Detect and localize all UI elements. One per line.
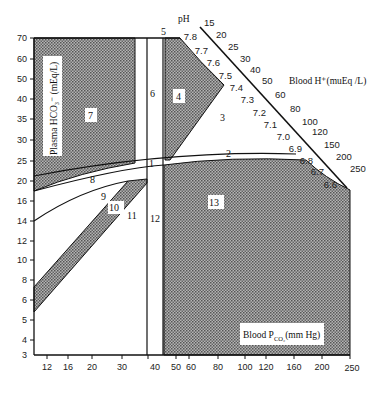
svg-text:7.5: 7.5	[219, 70, 232, 81]
x-tick-labels: 12 16 20 30 40 50 60 80 100 120 160 200 …	[42, 362, 360, 373]
svg-text:12: 12	[42, 362, 52, 372]
svg-text:6.9: 6.9	[289, 143, 302, 154]
svg-text:8: 8	[90, 174, 95, 185]
svg-text:20: 20	[17, 176, 27, 186]
svg-text:250: 250	[350, 163, 366, 174]
svg-text:3: 3	[220, 112, 225, 123]
svg-text:30: 30	[240, 53, 251, 64]
svg-text:6: 6	[22, 295, 27, 305]
svg-text:25: 25	[17, 156, 27, 166]
svg-text:16: 16	[63, 362, 73, 372]
svg-text:160: 160	[286, 362, 301, 372]
svg-text:40: 40	[250, 64, 261, 75]
svg-text:150: 150	[324, 139, 340, 150]
y-axis-label: Plasma HCO₃⁻ (mEq/L)	[49, 62, 60, 155]
svg-text:6.6: 6.6	[324, 179, 337, 190]
svg-text:12: 12	[17, 236, 27, 246]
svg-text:14: 14	[17, 216, 27, 226]
svg-text:7.6: 7.6	[207, 57, 220, 68]
svg-text:100: 100	[237, 362, 252, 372]
svg-text:7.2: 7.2	[253, 107, 266, 118]
svg-text:9: 9	[101, 191, 106, 202]
svg-text:30: 30	[117, 362, 127, 372]
svg-text:3: 3	[22, 350, 27, 360]
svg-text:7.3: 7.3	[241, 94, 254, 105]
svg-text:10: 10	[17, 255, 27, 265]
svg-text:50: 50	[171, 362, 181, 372]
svg-text:13: 13	[209, 197, 219, 208]
h-scale-title: Blood H⁺(muEq /L)	[289, 76, 366, 87]
svg-text:20: 20	[216, 29, 227, 40]
svg-text:35: 35	[17, 114, 27, 124]
svg-text:60: 60	[186, 362, 196, 372]
svg-text:6.7: 6.7	[311, 166, 324, 177]
svg-text:200: 200	[336, 151, 352, 162]
svg-text:70: 70	[17, 33, 27, 43]
svg-text:4: 4	[176, 91, 181, 102]
svg-text:25: 25	[228, 41, 239, 52]
svg-text:16: 16	[17, 196, 27, 206]
svg-text:60: 60	[275, 89, 286, 100]
svg-text:20: 20	[87, 362, 97, 372]
svg-text:200: 200	[314, 362, 329, 372]
svg-text:1: 1	[149, 158, 154, 169]
svg-text:30: 30	[17, 135, 27, 145]
svg-text:5: 5	[161, 26, 166, 37]
svg-text:15: 15	[204, 17, 215, 28]
svg-text:80: 80	[290, 103, 301, 114]
svg-text:250: 250	[344, 363, 359, 373]
svg-text:6.8: 6.8	[300, 155, 313, 166]
svg-text:7.0: 7.0	[277, 131, 290, 142]
svg-text:7.1: 7.1	[264, 119, 277, 130]
svg-text:50: 50	[17, 74, 27, 84]
svg-text:8: 8	[22, 275, 27, 285]
svg-text:80: 80	[213, 362, 223, 372]
svg-text:7.8: 7.8	[184, 31, 197, 42]
svg-text:40: 40	[17, 94, 27, 104]
svg-text:7: 7	[88, 110, 93, 121]
svg-text:11: 11	[127, 210, 137, 221]
diagonal-band-shade	[34, 179, 147, 312]
svg-text:120: 120	[312, 126, 328, 137]
svg-text:4: 4	[22, 335, 27, 345]
svg-text:2: 2	[226, 148, 231, 159]
svg-text:5: 5	[22, 315, 27, 325]
svg-text:60: 60	[17, 54, 27, 64]
y-tick-labels: 70 60 50 40 35 30 25 20 16 14 12 10 8 6 …	[17, 33, 27, 360]
svg-text:12: 12	[150, 213, 160, 224]
svg-text:7.4: 7.4	[230, 82, 243, 93]
svg-text:10: 10	[109, 202, 119, 213]
svg-text:120: 120	[258, 362, 273, 372]
svg-text:6: 6	[150, 88, 155, 99]
svg-text:50: 50	[262, 75, 273, 86]
acid-base-nomogram: 70 60 50 40 35 30 25 20 16 14 12 10 8 6 …	[0, 0, 379, 393]
svg-text:40: 40	[150, 362, 160, 372]
ph-title: pH	[178, 14, 190, 24]
svg-text:7.7: 7.7	[195, 45, 208, 56]
